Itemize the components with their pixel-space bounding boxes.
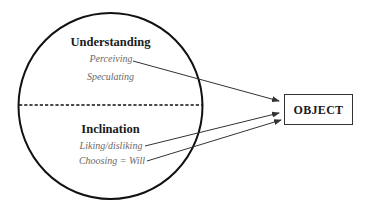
understanding-section: Understanding Perceiving Speculating (71, 35, 152, 82)
object-box: OBJECT (285, 95, 353, 125)
choosing-will-label: Choosing = Will (79, 155, 145, 166)
understanding-heading: Understanding (71, 35, 152, 49)
speculating-label: Speculating (87, 71, 134, 82)
soul-faculties-diagram: Understanding Perceiving Speculating Inc… (0, 0, 371, 209)
arrow-perceiving-to-object (133, 61, 279, 101)
object-label: OBJECT (294, 103, 344, 117)
liking-disliking-label: Liking/disliking (79, 140, 143, 151)
inclination-section: Inclination Liking/disliking Choosing = … (79, 122, 146, 166)
perceiving-label: Perceiving (89, 53, 133, 64)
inclination-heading: Inclination (81, 122, 139, 136)
